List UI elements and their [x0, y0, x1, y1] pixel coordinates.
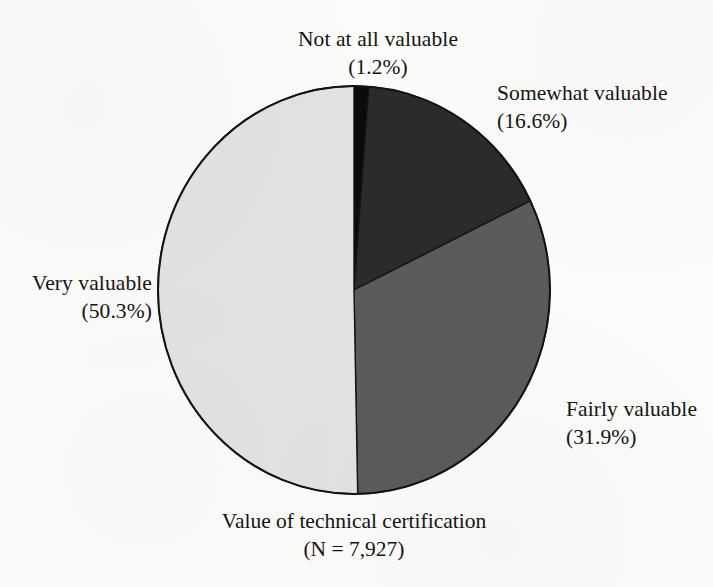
- slice-label-not-at-all-valuable-name: Not at all valuable: [268, 26, 488, 54]
- pie-chart-figure: Not at all valuable (1.2%) Somewhat valu…: [0, 0, 713, 587]
- slice-label-somewhat-valuable: Somewhat valuable (16.6%): [497, 80, 668, 136]
- chart-caption-title: Value of technical certification: [124, 508, 584, 536]
- chart-caption-sample-size: (N = 7,927): [124, 536, 584, 564]
- pie-wedge-group: [158, 86, 550, 494]
- slice-label-fairly-valuable-percent: (31.9%): [566, 424, 697, 452]
- slice-label-very-valuable: Very valuable (50.3%): [0, 270, 152, 326]
- slice-label-not-at-all-valuable: Not at all valuable (1.2%): [268, 26, 488, 82]
- slice-label-very-valuable-percent: (50.3%): [0, 298, 152, 326]
- chart-caption: Value of technical certification (N = 7,…: [124, 508, 584, 564]
- slice-label-fairly-valuable-name: Fairly valuable: [566, 396, 697, 424]
- slice-label-not-at-all-valuable-percent: (1.2%): [268, 54, 488, 82]
- pie-slice-very-valuable: [158, 86, 358, 494]
- slice-label-somewhat-valuable-name: Somewhat valuable: [497, 80, 668, 108]
- slice-label-very-valuable-name: Very valuable: [0, 270, 152, 298]
- slice-label-fairly-valuable: Fairly valuable (31.9%): [566, 396, 697, 452]
- slice-label-somewhat-valuable-percent: (16.6%): [497, 108, 668, 136]
